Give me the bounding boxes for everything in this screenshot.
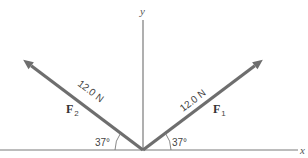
f2-symbol: F xyxy=(66,102,73,116)
f2-shaft xyxy=(31,66,143,150)
f2-angle-label: 37° xyxy=(95,137,110,148)
f2-subscript: 2 xyxy=(74,109,79,118)
f1-magnitude-label: 12.0 N xyxy=(178,87,208,114)
f2-symbol-label: F2 xyxy=(66,102,79,118)
f2-magnitude-label: 12.0 N xyxy=(76,78,106,105)
vector-f1 xyxy=(143,60,263,150)
f1-symbol: F xyxy=(213,102,220,116)
y-axis-label: y xyxy=(139,5,145,17)
f2-angle-arc xyxy=(115,133,121,150)
vector-f2 xyxy=(23,60,143,150)
f1-angle-label: 37° xyxy=(172,137,187,148)
f1-shaft xyxy=(143,66,255,150)
f1-angle-arc xyxy=(165,133,171,150)
x-axis-label: x xyxy=(299,144,305,156)
f1-symbol-label: F1 xyxy=(213,102,226,118)
f1-subscript: 1 xyxy=(221,109,226,118)
force-diagram: x y 37° 37° 12.0 N 12.0 N F1 F2 xyxy=(0,0,308,158)
